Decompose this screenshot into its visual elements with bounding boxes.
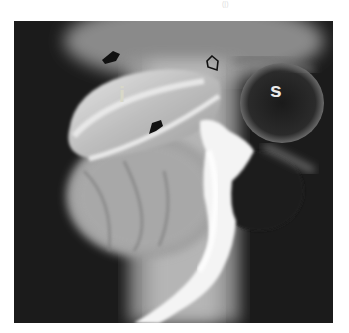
- solid-arrow-icon: [148, 119, 164, 135]
- open-arrow-icon: [205, 55, 221, 73]
- cropped-text-fragment: (|): [222, 0, 228, 7]
- radiograph-image: i s: [14, 21, 333, 323]
- radiograph-rendering: [14, 21, 333, 323]
- stomach-label: s: [270, 79, 282, 100]
- intestine-label: i: [119, 84, 125, 106]
- solid-arrow-icon: [102, 51, 122, 65]
